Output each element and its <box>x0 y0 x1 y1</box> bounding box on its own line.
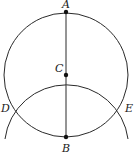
label-e: E <box>124 102 133 115</box>
point-b <box>64 135 68 139</box>
geometry-diagram: A C B D E <box>0 0 139 154</box>
label-b: B <box>61 142 70 154</box>
label-c: C <box>55 62 64 75</box>
label-d: D <box>0 102 10 115</box>
label-a: A <box>61 0 70 11</box>
point-c <box>64 73 68 77</box>
